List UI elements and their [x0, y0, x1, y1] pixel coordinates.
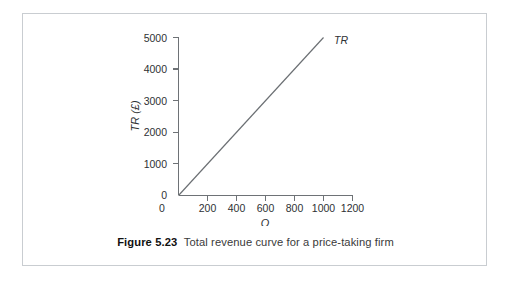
- y-axis-ticks: [173, 38, 179, 164]
- total-revenue-series-line: [179, 38, 324, 196]
- x-tick-label-800: 800: [286, 202, 304, 214]
- y-tick-label-3000: 3000: [144, 95, 168, 107]
- series-label-tr: TR: [334, 34, 348, 46]
- x-tick-label-200: 200: [199, 202, 217, 214]
- figure-caption-number: Figure 5.23: [117, 236, 177, 248]
- x-tick-label-1200: 1200: [341, 202, 365, 214]
- total-revenue-chart: 5000 4000 3000 2000 1000 0 0 200 400: [23, 14, 488, 226]
- x-axis-tick-labels: 0 200 400 600 800 1000 1200: [159, 202, 364, 214]
- y-tick-label-2000: 2000: [144, 126, 168, 138]
- x-tick-label-1000: 1000: [312, 202, 336, 214]
- figure-caption-description: Total revenue curve for a price-taking f…: [184, 236, 394, 248]
- y-axis-tick-labels: 5000 4000 3000 2000 1000 0: [144, 32, 168, 202]
- y-axis-title: TR (£): [129, 100, 141, 132]
- chart-plot-area: 5000 4000 3000 2000 1000 0 0 200 400: [23, 14, 488, 226]
- y-tick-label-0: 0: [161, 189, 167, 201]
- y-tick-label-1000: 1000: [144, 158, 168, 170]
- x-tick-label-400: 400: [228, 202, 246, 214]
- x-axis-ticks: [208, 196, 353, 202]
- y-tick-label-4000: 4000: [144, 63, 168, 75]
- x-tick-label-600: 600: [257, 202, 275, 214]
- x-axis-title: Q: [261, 217, 270, 226]
- x-tick-label-0: 0: [159, 202, 165, 214]
- y-tick-label-5000: 5000: [144, 32, 168, 44]
- figure-caption: Figure 5.23 Total revenue curve for a pr…: [23, 236, 488, 248]
- figure-frame: 5000 4000 3000 2000 1000 0 0 200 400: [22, 13, 487, 266]
